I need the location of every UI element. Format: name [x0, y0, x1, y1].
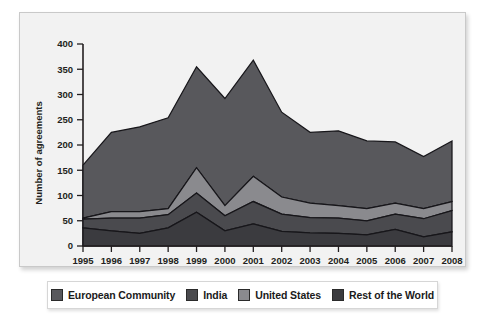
- plot-area: Number of agreements 0501001502002503003…: [20, 13, 467, 268]
- legend-swatch-icon: [186, 289, 198, 301]
- y-tick-label: 400: [57, 38, 73, 49]
- legend-item-rest-of-the-world[interactable]: Rest of the World: [332, 289, 434, 301]
- x-tick-label: 2000: [214, 255, 235, 266]
- x-tick-label: 2004: [328, 255, 350, 266]
- legend-item-india[interactable]: India: [186, 289, 227, 301]
- legend-swatch-icon: [332, 289, 344, 301]
- stacked-area-chart: Number of agreements 0501001502002503003…: [20, 13, 467, 268]
- x-tick-label: 1998: [158, 255, 179, 266]
- y-tick-label: 0: [68, 240, 73, 251]
- x-tick-label: 1995: [72, 255, 94, 266]
- x-tick-label: 2001: [243, 255, 265, 266]
- y-tick-label: 150: [57, 165, 73, 176]
- y-axis-label: Number of agreements: [33, 101, 44, 204]
- chart-legend: European CommunityIndiaUnited StatesRest…: [47, 281, 438, 309]
- chart-figure: Number of agreements 0501001502002503003…: [0, 0, 488, 335]
- x-tick-label: 1996: [101, 255, 122, 266]
- x-tick-label: 2003: [300, 255, 321, 266]
- y-axis-ticks: 050100150200250300350400: [57, 38, 83, 251]
- y-tick-label: 100: [57, 190, 73, 201]
- legend-item-united-states[interactable]: United States: [238, 289, 321, 301]
- y-tick-label: 50: [62, 215, 73, 226]
- legend-label: United States: [255, 289, 321, 301]
- legend-label: European Community: [68, 289, 175, 301]
- series-areas: [83, 60, 452, 246]
- legend-label: India: [203, 289, 227, 301]
- x-tick-label: 2005: [356, 255, 378, 266]
- legend-item-european-community[interactable]: European Community: [51, 289, 175, 301]
- x-tick-label: 2008: [441, 255, 462, 266]
- legend-swatch-icon: [51, 289, 63, 301]
- legend-swatch-icon: [238, 289, 250, 301]
- legend-label: Rest of the World: [349, 289, 434, 301]
- x-tick-label: 1997: [129, 255, 150, 266]
- x-tick-label: 2002: [271, 255, 292, 266]
- y-tick-label: 200: [57, 139, 73, 150]
- y-tick-label: 250: [57, 114, 73, 125]
- x-tick-label: 2006: [385, 255, 406, 266]
- x-tick-label: 2007: [413, 255, 434, 266]
- x-tick-label: 1999: [186, 255, 207, 266]
- chart-panel: Number of agreements 0501001502002503003…: [19, 12, 466, 267]
- y-tick-label: 350: [57, 64, 73, 75]
- y-tick-label: 300: [57, 89, 73, 100]
- x-axis-ticks: 1995199619971998199920002001200220032004…: [72, 246, 462, 266]
